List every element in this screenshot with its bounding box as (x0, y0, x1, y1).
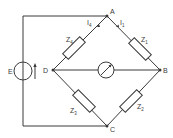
node-b-label: B (163, 67, 168, 74)
bridge-circuit: E A B C D Z1 Z2 Z3 Z4 I1 I4 (0, 0, 173, 138)
impedance-z3 (73, 90, 96, 113)
z2-label: Z2 (137, 103, 144, 112)
node-a-label: A (110, 8, 115, 15)
node-d-label: D (43, 67, 48, 74)
i1-label: I1 (120, 19, 125, 28)
z1-label: Z1 (141, 36, 148, 45)
node-d-dot (52, 69, 55, 72)
z3-label: Z3 (70, 107, 77, 116)
voltage-source-icon (14, 62, 37, 80)
source-label: E (8, 68, 13, 75)
node-a-dot (106, 15, 109, 18)
z4-label: Z4 (66, 36, 73, 45)
node-b-dot (159, 69, 162, 72)
galvanometer-icon (98, 62, 114, 78)
node-c-label: C (110, 126, 115, 133)
impedance-z1 (129, 38, 152, 61)
i4-label: I4 (87, 19, 92, 28)
wire-bottom-left (23, 80, 107, 126)
node-c-dot (106, 125, 109, 128)
